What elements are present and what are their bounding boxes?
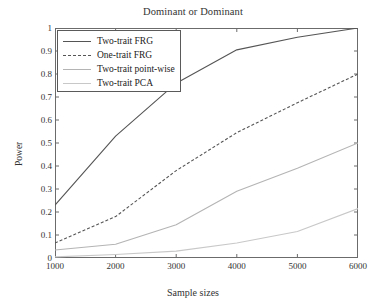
legend-label: Two-trait FRG: [97, 36, 153, 46]
legend-label: Two-trait PCA: [97, 78, 153, 88]
x-tick-label: 1000: [46, 261, 64, 271]
legend-line-swatch: [62, 78, 92, 88]
chart-title: Dominant or Dominant: [0, 6, 386, 17]
y-tick-label: 0.2: [41, 207, 52, 217]
legend-item-2[interactable]: Two-trait point-wise: [62, 62, 176, 76]
legend-item-1[interactable]: One-trait FRG: [62, 48, 176, 62]
x-tick-label: 4000: [228, 261, 246, 271]
x-tick-label: 6000: [349, 261, 367, 271]
x-tick-label: 2000: [107, 261, 125, 271]
x-axis-label: Sample sizes: [0, 287, 386, 298]
y-tick-label: 0.4: [41, 161, 52, 171]
y-axis-tick-labels: 00.10.20.30.40.50.60.70.80.91: [22, 28, 52, 258]
chart-legend: Two-trait FRGOne-trait FRGTwo-trait poin…: [57, 30, 181, 92]
y-tick-label: 0.1: [41, 230, 52, 240]
y-tick-label: 0.7: [41, 92, 52, 102]
x-axis-tick-labels: 100020003000400050006000: [55, 260, 358, 276]
legend-label: Two-trait point-wise: [97, 64, 175, 74]
y-tick-label: 0.5: [41, 138, 52, 148]
legend-line-swatch: [62, 64, 92, 74]
series-line-3: [55, 209, 358, 257]
y-tick-label: 0.6: [41, 115, 52, 125]
x-tick-label: 3000: [167, 261, 185, 271]
legend-item-0[interactable]: Two-trait FRG: [62, 34, 176, 48]
legend-item-3[interactable]: Two-trait PCA: [62, 76, 176, 90]
y-tick-label: 0.3: [41, 184, 52, 194]
y-tick-label: 0.9: [41, 46, 52, 56]
series-line-1: [55, 74, 358, 243]
series-line-2: [55, 143, 358, 250]
legend-line-swatch: [62, 50, 92, 60]
x-tick-label: 5000: [288, 261, 306, 271]
figure: Dominant or Dominant Power 00.10.20.30.4…: [0, 0, 386, 303]
legend-line-swatch: [62, 36, 92, 46]
legend-label: One-trait FRG: [97, 50, 152, 60]
y-tick-label: 1: [48, 23, 53, 33]
y-tick-label: 0.8: [41, 69, 52, 79]
y-axis-label: Power: [2, 94, 12, 118]
